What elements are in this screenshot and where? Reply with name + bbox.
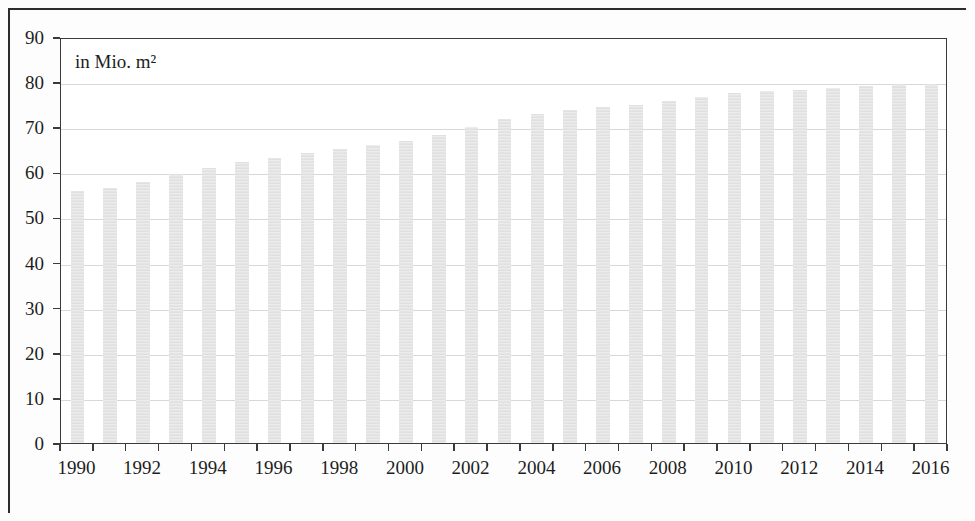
x-tick-label: 1996 — [239, 458, 309, 477]
bar — [596, 107, 610, 444]
bar — [793, 90, 807, 443]
y-tick-80 — [53, 82, 60, 84]
bar — [136, 182, 150, 443]
y-tick-label: 60 — [2, 163, 44, 182]
bar — [399, 141, 413, 443]
bar — [498, 119, 512, 443]
bar — [925, 84, 939, 444]
bar — [268, 158, 282, 443]
bar — [366, 145, 380, 443]
y-tick-label: 20 — [2, 344, 44, 363]
y-tick-50 — [53, 218, 60, 220]
bar — [531, 114, 545, 443]
y-tick-label: 90 — [2, 28, 44, 47]
x-tick — [453, 444, 455, 451]
x-tick — [585, 444, 587, 451]
x-tick-label: 2004 — [501, 458, 571, 477]
bar — [563, 110, 577, 443]
unit-annotation: in Mio. m² — [75, 51, 156, 73]
x-tick — [289, 444, 291, 451]
bar — [169, 174, 183, 443]
y-tick-10 — [53, 398, 60, 400]
x-tick — [618, 444, 620, 451]
x-tick-label: 2008 — [633, 458, 703, 477]
y-tick-label: 80 — [2, 73, 44, 92]
y-tick-20 — [53, 353, 60, 355]
bar — [662, 101, 676, 443]
x-tick — [256, 444, 258, 451]
bar — [103, 188, 117, 443]
x-tick-label: 2000 — [370, 458, 440, 477]
x-tick — [946, 444, 948, 451]
x-tick — [59, 444, 61, 451]
x-tick-label: 1992 — [107, 458, 177, 477]
bar — [760, 91, 774, 443]
x-tick — [749, 444, 751, 451]
bar — [301, 153, 315, 443]
bar — [859, 86, 873, 443]
x-tick-label: 2006 — [567, 458, 637, 477]
gridline-80 — [61, 84, 946, 85]
bar — [892, 84, 906, 443]
y-tick-40 — [53, 263, 60, 265]
y-tick-label: 70 — [2, 118, 44, 137]
plot-area: in Mio. m² — [60, 38, 947, 444]
x-tick — [125, 444, 127, 451]
x-tick-label: 1994 — [173, 458, 243, 477]
bar — [465, 127, 479, 443]
x-tick — [651, 444, 653, 451]
y-tick-label: 40 — [2, 254, 44, 273]
x-tick — [421, 444, 423, 451]
bar — [629, 105, 643, 443]
chart-figure: in Mio. m² 9080706050403020100 199019921… — [0, 0, 975, 521]
x-tick — [519, 444, 521, 451]
bar — [71, 191, 85, 443]
x-tick-label: 2016 — [896, 458, 966, 477]
x-tick — [224, 444, 226, 451]
bar — [202, 168, 216, 443]
x-tick — [683, 444, 685, 451]
bar — [695, 97, 709, 443]
y-tick-60 — [53, 173, 60, 175]
x-tick — [322, 444, 324, 451]
y-tick-90 — [53, 37, 60, 39]
y-tick-30 — [53, 308, 60, 310]
x-tick — [355, 444, 357, 451]
x-tick — [388, 444, 390, 451]
plot-inner: in Mio. m² — [61, 39, 946, 443]
x-tick-label: 2010 — [699, 458, 769, 477]
x-tick — [158, 444, 160, 451]
x-tick — [716, 444, 718, 451]
y-tick-70 — [53, 127, 60, 129]
x-tick-label: 1998 — [304, 458, 374, 477]
x-tick — [782, 444, 784, 451]
x-tick — [552, 444, 554, 451]
y-tick-label: 50 — [2, 208, 44, 227]
bar — [826, 88, 840, 444]
x-tick — [881, 444, 883, 451]
bar — [432, 135, 446, 443]
y-tick-label: 30 — [2, 299, 44, 318]
y-tick-label: 10 — [2, 389, 44, 408]
x-tick-label: 2014 — [830, 458, 900, 477]
x-tick — [92, 444, 94, 451]
x-tick — [815, 444, 817, 451]
bar — [235, 162, 249, 443]
x-tick — [486, 444, 488, 451]
bar — [728, 93, 742, 443]
x-tick — [848, 444, 850, 451]
y-tick-label: 0 — [2, 434, 44, 453]
x-tick — [191, 444, 193, 451]
bar — [333, 149, 347, 443]
x-tick-label: 2002 — [436, 458, 506, 477]
x-tick — [913, 444, 915, 451]
x-tick-label: 2012 — [764, 458, 834, 477]
x-tick-label: 1990 — [41, 458, 111, 477]
